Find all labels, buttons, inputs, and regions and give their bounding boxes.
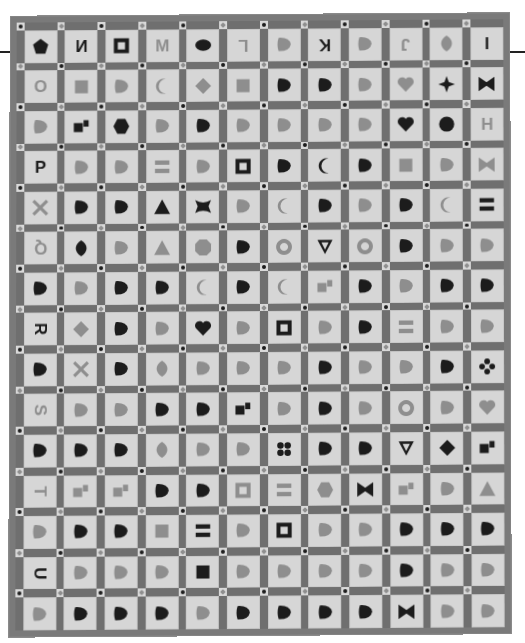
four-dots-icon — [275, 440, 293, 458]
applique-block — [146, 393, 179, 426]
applique-block — [227, 230, 260, 263]
cornerstone — [383, 466, 389, 472]
triangle-square-icon — [112, 523, 130, 541]
cornerstone — [383, 263, 389, 269]
quilt-cell — [219, 547, 260, 588]
cornerstone — [57, 509, 63, 515]
heart-dot-icon — [356, 318, 374, 336]
cornerstone — [180, 265, 186, 271]
heart-icon — [397, 115, 415, 133]
square-dots-icon — [316, 399, 334, 417]
quilt-cell — [179, 223, 220, 264]
applique-block — [471, 431, 504, 464]
applique-block — [430, 391, 463, 424]
quilt-cell — [341, 20, 382, 61]
letter-applique: R — [32, 323, 49, 335]
fan-icon — [194, 157, 212, 175]
applique-block — [227, 150, 260, 183]
applique-block — [390, 351, 423, 384]
quilt-cell — [57, 305, 98, 346]
quilt-grid: NMLKJIOHPQRSTUVWXYZ&1871 — [15, 19, 504, 630]
quilt-cell — [463, 383, 504, 424]
cornerstone — [464, 344, 470, 350]
squares-icon — [72, 118, 90, 136]
quilt-cell — [260, 263, 301, 304]
heart-icon — [397, 75, 415, 93]
x-cross-icon — [31, 199, 49, 217]
letter-applique: T — [31, 486, 48, 497]
cornerstone — [16, 550, 22, 556]
applique-block — [64, 597, 97, 630]
applique-block — [268, 311, 301, 344]
cornerstone — [302, 386, 308, 392]
speech-icon — [153, 401, 171, 419]
cornerstone — [99, 104, 105, 110]
cornerstone — [302, 62, 308, 68]
letter-applique: J — [401, 35, 410, 52]
diamond-icon — [194, 77, 212, 95]
quilt-cell: U — [15, 549, 56, 590]
applique-block — [268, 433, 301, 466]
quilt-cell: T — [16, 467, 57, 508]
applique-block — [23, 597, 56, 630]
applique-block — [349, 392, 382, 425]
quilt-cell — [260, 61, 301, 102]
cornerstone — [261, 224, 267, 230]
leaf-frame-icon — [194, 482, 212, 500]
applique-block — [24, 272, 57, 305]
squares-icon — [234, 400, 252, 418]
crescent-icon — [438, 196, 456, 214]
applique-block — [64, 516, 97, 549]
applique-block — [105, 353, 138, 386]
cornerstone — [383, 507, 389, 513]
bell-icon — [316, 359, 334, 377]
cornerstone — [17, 225, 23, 231]
boot-icon — [194, 360, 212, 378]
crescent-icon — [194, 279, 212, 297]
quilt-cell — [179, 385, 220, 426]
bars-icon — [153, 158, 171, 176]
applique-block — [349, 108, 382, 141]
cornerstone — [383, 223, 389, 229]
applique-block — [105, 110, 138, 143]
quilt-cell — [341, 303, 382, 344]
quilt-cell — [382, 587, 423, 628]
applique-block — [105, 70, 138, 103]
quilt-cell — [382, 424, 423, 465]
cornerstone — [220, 62, 226, 68]
quilt-cell — [219, 142, 260, 183]
quilt-cell — [341, 506, 382, 547]
bowtie-icon — [397, 602, 415, 620]
cornerstone — [343, 548, 349, 554]
applique-block — [471, 148, 504, 181]
grapes-icon — [153, 482, 171, 500]
maple-leaf-icon — [112, 441, 130, 459]
applique-block — [187, 109, 220, 142]
quilt-cell — [423, 383, 464, 424]
quilt-cell — [342, 587, 383, 628]
quilt-cell — [57, 224, 98, 265]
hat-icon — [275, 400, 293, 418]
applique-block — [187, 69, 220, 102]
cornerstone — [220, 467, 226, 473]
applique-block — [105, 231, 138, 264]
berries-icon — [397, 521, 415, 539]
cup-icon — [153, 319, 171, 337]
cornerstone — [464, 61, 470, 67]
ladder-circle-icon — [357, 440, 375, 458]
anvil-icon — [438, 561, 456, 579]
applique-block — [105, 272, 138, 305]
cluster-icon — [275, 359, 293, 377]
quilt-cell — [138, 183, 179, 224]
letter-block: L — [227, 29, 260, 62]
cornerstone — [180, 143, 186, 149]
cornerstone — [17, 509, 23, 515]
quilt-cell — [341, 141, 382, 182]
cornerstone — [342, 183, 348, 189]
applique-block — [146, 231, 179, 264]
applique-block — [308, 473, 341, 506]
cornerstone — [302, 467, 308, 473]
horseshoe-icon — [113, 279, 131, 297]
cornerstone — [342, 507, 348, 513]
cornerstone — [57, 468, 63, 474]
